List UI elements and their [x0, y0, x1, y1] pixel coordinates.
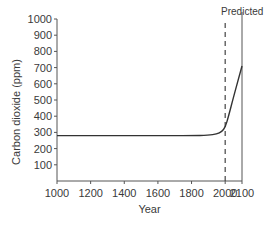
y-tick-label: 100	[34, 159, 52, 171]
y-axis-label: Carbon dioxide (ppm)	[10, 59, 22, 165]
y-tick-label: 900	[34, 29, 52, 41]
x-tick-label: 1600	[146, 187, 170, 199]
x-tick-label: 1200	[78, 187, 102, 199]
chart-canvas: 1002003004005006007008009001000100012001…	[0, 0, 264, 228]
predicted-label: Predicted	[221, 6, 263, 17]
y-tick-label: 500	[34, 94, 52, 106]
y-tick-label: 300	[34, 126, 52, 138]
co2-chart: 1002003004005006007008009001000100012001…	[0, 0, 264, 228]
x-axis-label: Year	[138, 203, 161, 215]
y-tick-label: 800	[34, 45, 52, 57]
co2-series-line	[57, 66, 242, 136]
y-tick-label: 400	[34, 110, 52, 122]
y-tick-label: 700	[34, 62, 52, 74]
x-tick-label: 1400	[112, 187, 136, 199]
x-tick-label: 2100	[230, 187, 254, 199]
y-tick-label: 1000	[28, 13, 52, 25]
x-tick-label: 1000	[45, 187, 69, 199]
x-tick-label: 1800	[179, 187, 203, 199]
y-tick-label: 600	[34, 78, 52, 90]
y-tick-label: 200	[34, 143, 52, 155]
